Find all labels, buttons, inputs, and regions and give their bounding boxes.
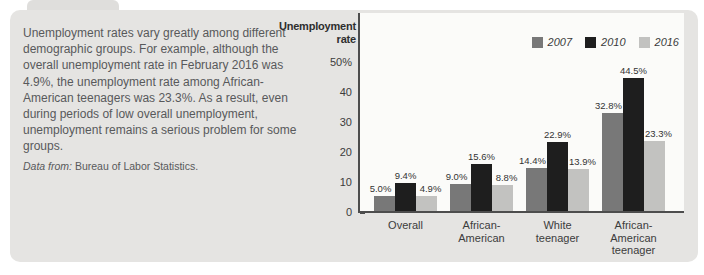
y-tick-label: 40	[308, 86, 352, 98]
bar-2007	[374, 196, 395, 211]
page-background: Unemployment rates vary greatly among di…	[0, 0, 704, 275]
bar-2007	[526, 168, 547, 211]
bar-value-label: 15.6%	[462, 151, 502, 162]
y-tick-label: 30	[308, 116, 352, 128]
y-tick-label: 20	[308, 146, 352, 158]
bar-chart: Unemployment rate 01020304050% 200720102…	[10, 10, 698, 262]
category-label-line: American	[584, 232, 684, 245]
bar-value-label: 13.9%	[563, 156, 603, 167]
bar-group-overall: 5.0%9.4%4.9%	[374, 13, 437, 211]
bar-2016	[644, 141, 665, 211]
bar-value-label: 9.4%	[386, 170, 426, 181]
bar-group-african-american-teenager: 32.8%44.5%23.3%	[602, 13, 665, 211]
y-tick-label: 50%	[308, 56, 352, 68]
category-label-line: teenager	[584, 244, 684, 257]
category-label-line: African-	[584, 219, 684, 232]
bar-value-label: 4.9%	[411, 183, 451, 194]
bar-2016	[416, 196, 437, 211]
y-tick-label: 10	[308, 176, 352, 188]
bar-value-label: 23.3%	[639, 128, 679, 139]
y-tick-label: 0	[308, 206, 352, 218]
figure-card: Unemployment rates vary greatly among di…	[10, 10, 698, 262]
bar-value-label: 44.5%	[614, 65, 654, 76]
bar-2007	[450, 184, 471, 211]
y-axis-title: Unemployment rate	[278, 20, 356, 46]
bar-groups: 5.0%9.4%4.9%9.0%15.6%8.8%14.4%22.9%13.9%…	[360, 13, 684, 211]
bar-2016	[492, 185, 513, 211]
bar-2016	[568, 169, 589, 211]
bar-group-african-american: 9.0%15.6%8.8%	[450, 13, 513, 211]
plot-area: 200720102016 5.0%9.4%4.9%9.0%15.6%8.8%14…	[358, 13, 684, 213]
bar-2010	[547, 142, 568, 211]
category-label: African-Americanteenager	[584, 219, 684, 257]
bar-value-label: 8.8%	[487, 172, 527, 183]
bar-2010	[623, 78, 644, 212]
bar-value-label: 22.9%	[538, 129, 578, 140]
bar-2007	[602, 113, 623, 211]
bar-group-white-teenager: 14.4%22.9%13.9%	[526, 13, 589, 211]
